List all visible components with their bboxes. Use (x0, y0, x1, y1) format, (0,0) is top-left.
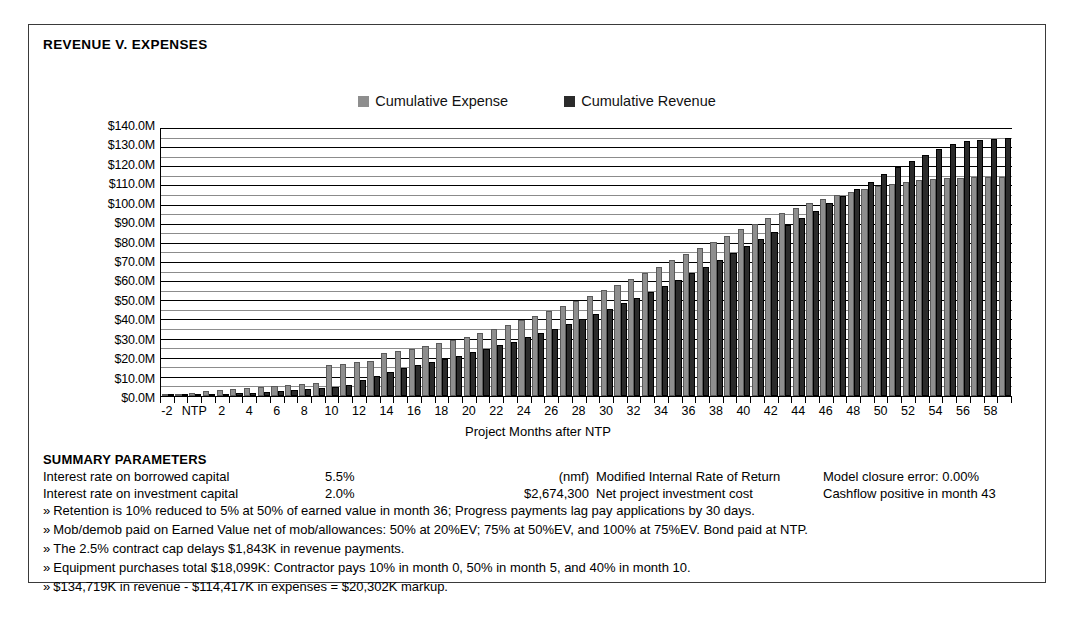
bar-revenue (744, 246, 750, 396)
x-axis-tick (736, 397, 737, 403)
bar-group (655, 128, 669, 396)
bar-group (298, 128, 312, 396)
x-axis-title: Project Months after NTP (29, 424, 1047, 439)
x-axis-tick (297, 397, 298, 403)
bullet-marker-icon: » (43, 560, 50, 575)
x-axis-tick (311, 397, 312, 403)
x-axis-tick-label: 28 (572, 404, 586, 418)
bar-revenue (881, 174, 887, 396)
bar-group (696, 128, 710, 396)
bar-group (874, 128, 888, 396)
x-axis-tick-label: 34 (654, 404, 668, 418)
y-axis-tick-label: $30.0M (115, 333, 156, 347)
x-axis-tick (846, 397, 847, 403)
x-axis-tick-label: -2 (161, 404, 172, 418)
bar-revenue (964, 141, 970, 396)
bar-group (339, 128, 353, 396)
bar-revenue (483, 349, 489, 396)
x-axis-tick-label: 22 (489, 404, 503, 418)
bar-revenue (278, 391, 284, 396)
bar-revenue (374, 376, 380, 396)
x-axis-tick-label: 6 (273, 404, 280, 418)
bar-revenue (758, 239, 764, 396)
summary-note: Cashflow positive in month 43 (823, 486, 996, 501)
bar-revenue (675, 280, 681, 396)
bar-revenue (593, 314, 599, 396)
bar-group (284, 128, 298, 396)
x-axis-tick (833, 397, 834, 403)
x-axis-tick (544, 397, 545, 403)
summary-param-label: Interest rate on borrowed capital (43, 469, 229, 484)
bar-revenue (607, 309, 613, 396)
summary-bullet: »Mob/demob paid on Earned Value net of m… (43, 522, 1035, 541)
bullet-text: The 2.5% contract cap delays $1,843K in … (53, 541, 404, 556)
x-axis-tick-label: 56 (956, 404, 970, 418)
x-axis-tick (819, 397, 820, 403)
x-axis-tick-label: 32 (627, 404, 641, 418)
x-axis-tick-label: 26 (544, 404, 558, 418)
x-axis-tick-label: 54 (929, 404, 943, 418)
x-axis-tick (640, 397, 641, 403)
bar-group (916, 128, 930, 396)
bar-revenue (346, 385, 352, 396)
x-axis-tick-label: 18 (434, 404, 448, 418)
bar-group (435, 128, 449, 396)
bar-group (710, 128, 724, 396)
y-axis-tick-label: $20.0M (115, 352, 156, 366)
bar-group (929, 128, 943, 396)
bar-revenue (442, 359, 448, 396)
x-axis-tick (915, 397, 916, 403)
summary-rows: Interest rate on borrowed capital5.5%(nm… (43, 469, 1035, 503)
x-axis-tick (750, 397, 751, 403)
x-axis-labels: -2NTP24681012141618202224262830323436384… (160, 404, 1011, 422)
x-axis-tick (503, 397, 504, 403)
x-axis-tick (517, 397, 518, 403)
x-axis-tick (380, 397, 381, 403)
x-axis-tick (709, 397, 710, 403)
summary-row: Interest rate on borrowed capital5.5%(nm… (43, 469, 1035, 486)
bar-group (737, 128, 751, 396)
bar-revenue (950, 144, 956, 396)
x-axis-tick (984, 397, 985, 403)
bar-group (463, 128, 477, 396)
x-axis-tick (407, 397, 408, 403)
bar-revenue (730, 253, 736, 396)
bar-revenue (250, 393, 256, 396)
x-axis-tick (366, 397, 367, 403)
summary-result-label: Modified Internal Rate of Return (596, 469, 780, 484)
x-axis-tick (778, 397, 779, 403)
bullet-text: Mob/demob paid on Earned Value net of mo… (53, 522, 808, 537)
x-axis-tick-label: 8 (301, 404, 308, 418)
bullet-text: $134,719K in revenue - $114,417K in expe… (53, 579, 448, 594)
x-axis-tick (229, 397, 230, 403)
bar-revenue (401, 368, 407, 396)
x-axis-tick-label: 12 (352, 404, 366, 418)
bar-group (888, 128, 902, 396)
x-axis-tick (929, 397, 930, 403)
bar-revenue (236, 393, 242, 396)
summary-bullet: »The 2.5% contract cap delays $1,843K in… (43, 541, 1035, 560)
summary-result-value: (nmf) (461, 469, 589, 484)
y-axis-tick-label: $40.0M (115, 313, 156, 327)
bar-revenue (895, 167, 901, 396)
bar-group (847, 128, 861, 396)
x-axis-tick (887, 397, 888, 403)
bullet-marker-icon: » (43, 522, 50, 537)
bullet-marker-icon: » (43, 579, 50, 594)
x-axis-tick-label: 44 (791, 404, 805, 418)
bar-revenue (415, 365, 421, 396)
bar-group (518, 128, 532, 396)
bar-revenue (826, 203, 832, 396)
x-axis-tick (174, 397, 175, 403)
x-axis-tick (558, 397, 559, 403)
x-axis-tick (448, 397, 449, 403)
bar-group (353, 128, 367, 396)
x-axis-tick (187, 397, 188, 403)
bar-group (902, 128, 916, 396)
x-axis-tick-label: 50 (874, 404, 888, 418)
summary-param-value: 5.5% (325, 469, 355, 484)
x-axis-tick-label: 24 (517, 404, 531, 418)
x-axis-tick (956, 397, 957, 403)
x-axis-tick (805, 397, 806, 403)
bar-group (188, 128, 202, 396)
